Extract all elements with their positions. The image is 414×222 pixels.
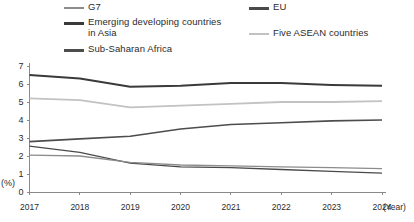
legend-label-five-asean-countries: Five ASEAN countries [273,28,368,39]
legend-label-emerging-asia-block: Emerging developing countries in Asia [88,17,221,38]
legend-swatch-five-asean-countries [249,33,269,35]
series-line-sub-saharan-africa [30,120,383,142]
legend-swatch-eu [249,7,269,10]
axis-group [27,63,387,195]
legend-item-eu[interactable]: EU [249,2,286,13]
series-group [30,75,383,173]
chart-legend: G7 Emerging developing countries in Asia… [0,0,414,62]
economic-growth-line-chart: G7 Emerging developing countries in Asia… [0,0,414,222]
legend-label-emerging-asia-line2: in Asia [88,28,221,39]
legend-item-five-asean-countries[interactable]: Five ASEAN countries [249,28,368,39]
series-line-g7 [30,155,383,169]
legend-label-eu: EU [273,2,286,13]
legend-swatch-sub-saharan-africa [64,49,84,52]
legend-label-g7: G7 [88,2,101,13]
series-line-eu [30,146,383,173]
legend-label-sub-saharan-africa: Sub-Saharan Africa [88,44,172,55]
legend-swatch-g7 [64,7,84,9]
legend-item-emerging-asia[interactable]: Emerging developing countries in Asia [64,17,221,38]
plot-svg [0,60,414,222]
legend-item-g7[interactable]: G7 [64,2,101,13]
series-line-five-asean-countries [30,98,383,107]
plot-area: (%) (Year) 01234567 20172018201920202021… [0,60,414,222]
legend-item-sub-saharan-africa[interactable]: Sub-Saharan Africa [64,44,172,55]
legend-label-emerging-asia-line1: Emerging developing countries [88,17,221,28]
series-line-emerging-developing-countries-in-asia [30,75,383,87]
legend-swatch-emerging-asia [64,22,84,25]
